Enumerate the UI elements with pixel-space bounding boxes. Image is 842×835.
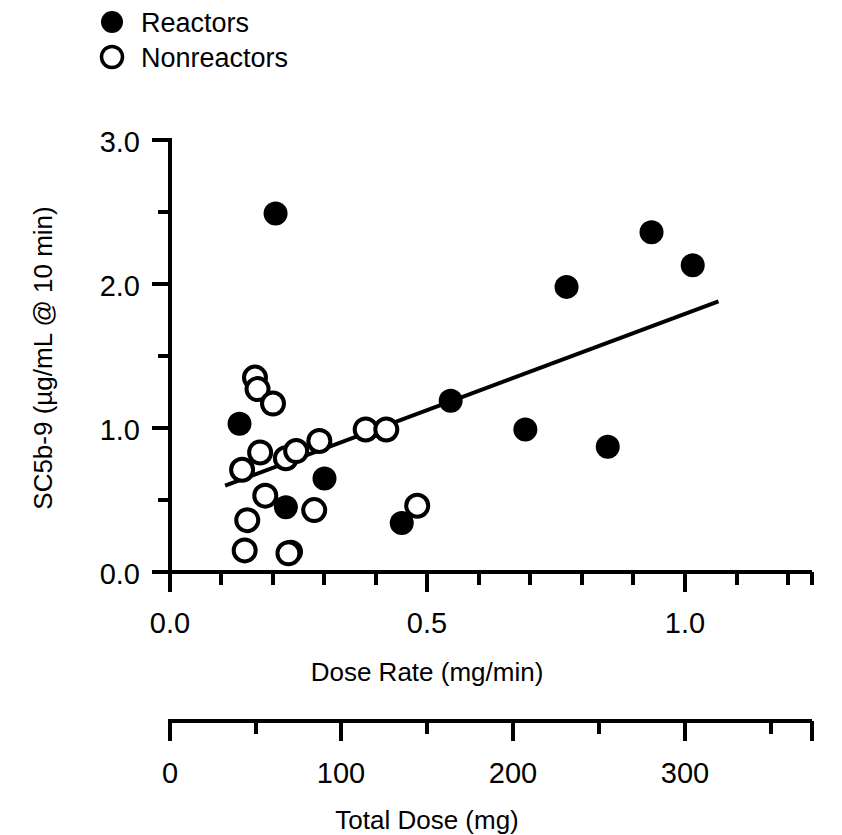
data-point [513, 417, 537, 441]
x-tick-label-0: 0.0 [150, 607, 190, 639]
scatter-plot-figure: Reactors Nonreactors [0, 0, 842, 835]
y-tick-label-1: 1.0 [100, 414, 140, 446]
legend-marker-reactors-icon [101, 11, 123, 33]
data-point [313, 466, 337, 490]
legend-marker-nonreactors-icon [102, 47, 123, 68]
y-axis-title: SC5b-9 (µg/mL @ 10 min) [28, 206, 58, 509]
data-point [406, 495, 428, 517]
data-point [555, 275, 579, 299]
secondary-tick-label-0: 0 [162, 757, 178, 789]
data-point [277, 542, 299, 564]
data-point [303, 499, 325, 521]
legend-label-nonreactors: Nonreactors [141, 43, 288, 73]
legend-label-reactors: Reactors [141, 8, 249, 38]
data-point [231, 459, 253, 481]
data-point [264, 201, 288, 225]
data-point [285, 440, 307, 462]
x-tick-label-1: 0.5 [407, 607, 447, 639]
chart-canvas: Reactors Nonreactors [0, 0, 842, 835]
x-tick-label-2: 1.0 [665, 607, 705, 639]
secondary-axis: 0 100 200 300 Total Dose (mg) [162, 721, 812, 835]
data-point [308, 430, 330, 452]
secondary-tick-label-300: 300 [661, 757, 709, 789]
data-point [681, 253, 705, 277]
data-point [596, 435, 620, 459]
x-tick-labels: 0.0 0.5 1.0 [150, 607, 705, 639]
secondary-tick-label-200: 200 [489, 757, 537, 789]
x-axis-title: Dose Rate (mg/min) [311, 657, 544, 687]
data-point [249, 441, 271, 463]
data-point [228, 412, 252, 436]
chart-legend: Reactors Nonreactors [101, 8, 288, 73]
data-point [254, 485, 276, 507]
data-point [439, 389, 463, 413]
data-points-layer [228, 201, 705, 564]
y-tick-label-3: 3.0 [100, 126, 140, 158]
y-tick-label-2: 2.0 [100, 270, 140, 302]
secondary-axis-title: Total Dose (mg) [335, 805, 519, 835]
secondary-axis-tick-labels: 0 100 200 300 [162, 757, 709, 789]
data-point [375, 418, 397, 440]
data-point [234, 539, 256, 561]
data-point [262, 393, 284, 415]
secondary-axis-major-ticks [170, 721, 812, 741]
y-tick-labels: 3.0 2.0 1.0 0.0 [100, 126, 140, 590]
secondary-tick-label-100: 100 [317, 757, 365, 789]
series-reactors [228, 201, 705, 563]
x-axis-major-ticks [170, 572, 685, 592]
data-point [640, 220, 664, 244]
data-point [236, 509, 258, 531]
y-tick-label-0: 0.0 [100, 558, 140, 590]
